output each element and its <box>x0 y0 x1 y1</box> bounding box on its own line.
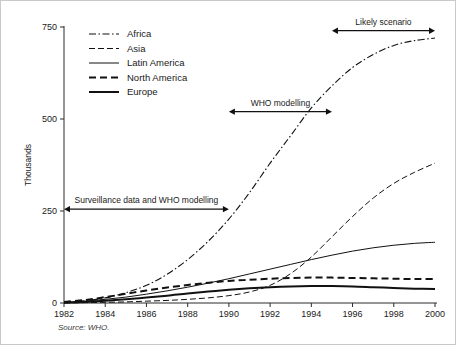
annotation-label: WHO modelling <box>251 98 311 108</box>
x-tick-label: 1984 <box>95 309 115 319</box>
x-tick-label: 1996 <box>343 309 363 319</box>
arrow-head-right <box>429 27 435 33</box>
annotation-3 <box>332 27 435 33</box>
annotation-label: Surveillance data and WHO modelling <box>75 195 219 205</box>
arrow-head-left <box>64 206 70 212</box>
series-line-africa <box>64 38 435 302</box>
legend-label-africa: Africa <box>127 28 152 39</box>
x-tick-label: 1988 <box>178 309 198 319</box>
arrow-head-left <box>229 108 235 114</box>
y-tick-label: 250 <box>42 206 57 216</box>
x-tick-label: 1992 <box>260 309 280 319</box>
arrow-head-right <box>223 206 229 212</box>
legend-label-europe: Europe <box>127 86 158 97</box>
y-tick-label: 500 <box>42 114 57 124</box>
y-tick-label: 750 <box>42 22 57 32</box>
line-chart: 0250500750198219841986198819901992199419… <box>1 1 456 345</box>
arrow-head-right <box>326 108 332 114</box>
y-tick-label: 0 <box>52 298 57 308</box>
x-tick-label: 1994 <box>301 309 321 319</box>
x-tick-label: 1986 <box>136 309 156 319</box>
legend-label-latin-america: Latin America <box>127 57 185 68</box>
annotation-label: Likely scenario <box>355 17 411 27</box>
arrow-head-left <box>332 27 338 33</box>
annotation-2 <box>229 108 332 114</box>
annotation-1 <box>64 206 229 212</box>
x-tick-label: 1990 <box>219 309 239 319</box>
series-line-asia <box>64 163 435 303</box>
y-axis-title: Thousands <box>23 144 33 186</box>
legend-label-north-america: North America <box>127 72 188 83</box>
chart-figure: 0250500750198219841986198819901992199419… <box>0 0 456 345</box>
series-line-latin-america <box>64 242 435 302</box>
x-tick-label: 1982 <box>54 309 74 319</box>
legend-label-asia: Asia <box>127 43 146 54</box>
source-note: Source: WHO. <box>58 323 110 332</box>
x-tick-label: 2000 <box>425 309 445 319</box>
x-tick-label: 1998 <box>384 309 404 319</box>
